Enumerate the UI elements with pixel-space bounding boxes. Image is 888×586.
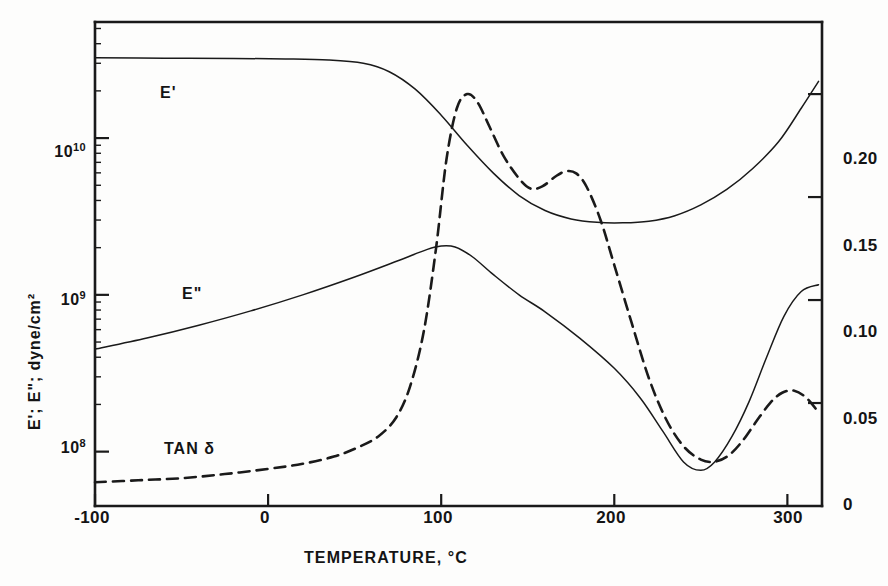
x-tick-label-0: -100 (57, 508, 127, 528)
y-axis-title: E'; E"; dyne/cm² (26, 293, 44, 430)
y-left-mantissa-2: 10 (54, 143, 73, 160)
y-left-tick-label-10e9: 109 (10, 289, 86, 309)
y-left-tick-label-10e10: 1010 (10, 141, 86, 161)
figure-canvas: -100 0 100 200 300 TEMPERATURE, °C 1010 … (0, 0, 888, 586)
x-tick-label-3: 200 (576, 508, 646, 528)
data-curves (95, 58, 819, 482)
y-left-exponent-2: 10 (73, 141, 86, 153)
y-left-exponent-0: 8 (79, 437, 86, 449)
y-left-tick-label-10e8: 108 (10, 437, 86, 457)
y-right-tick-label-0: 0 (843, 495, 853, 515)
x-tick-label-1: 0 (235, 508, 295, 528)
y-left-mantissa-0: 10 (61, 439, 80, 456)
y-left-exponent-1: 9 (79, 289, 86, 301)
x-tick-label-4: 300 (753, 508, 823, 528)
curve-e-prime (95, 58, 819, 223)
y-left-mantissa-1: 10 (61, 291, 80, 308)
curve-e-double-prime (95, 246, 819, 471)
x-axis-title: TEMPERATURE, °C (304, 549, 468, 567)
curve-tan-delta (95, 94, 819, 482)
y-right-tick-label-0_15: 0.15 (843, 236, 878, 256)
y-right-tick-label-0_10: 0.10 (843, 322, 878, 342)
e-prime-label: E' (160, 84, 176, 102)
tan-delta-label: TAN δ (164, 440, 215, 458)
axis-ticks (95, 28, 822, 506)
plot-frame (95, 22, 822, 506)
e-double-prime-label: E" (182, 285, 202, 303)
y-right-tick-label-0_05: 0.05 (843, 409, 878, 429)
y-right-tick-label-0_20: 0.20 (843, 149, 878, 169)
x-tick-label-2: 100 (403, 508, 473, 528)
plot-area (0, 0, 888, 586)
